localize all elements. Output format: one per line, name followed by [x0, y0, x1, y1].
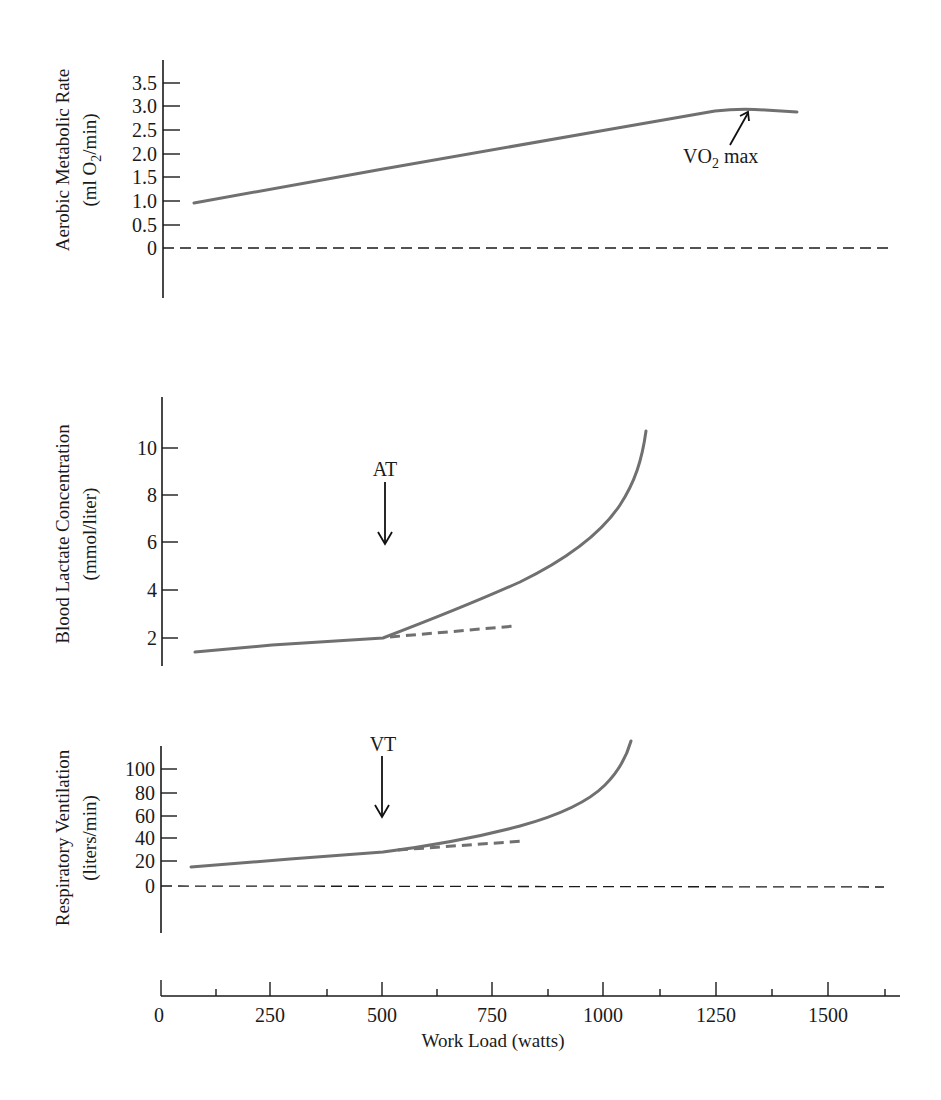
aerobic-panel: Aerobic Metabolic Rate (ml O2/min) 3.5 3… — [52, 60, 890, 298]
svg-text:1250: 1250 — [696, 1004, 736, 1026]
ventilation-y-tick-labels: 100 80 60 40 20 0 — [125, 758, 155, 897]
svg-text:500: 500 — [367, 1004, 397, 1026]
ventilation-zero-line — [161, 886, 884, 887]
ventilation-extrapolation-line — [398, 841, 524, 850]
svg-text:2.5: 2.5 — [132, 119, 157, 141]
vt-annotation: VT — [370, 733, 397, 817]
svg-text:20: 20 — [135, 850, 155, 872]
vo2max-label: VO2 max — [683, 145, 758, 171]
at-annotation: AT — [373, 458, 397, 544]
lactate-panel: Blood Lactate Concentration (mmol/liter)… — [52, 397, 646, 666]
x-axis: 0 250 500 750 1000 1250 1500 Work Load (… — [154, 980, 900, 1052]
svg-text:8: 8 — [147, 484, 157, 506]
svg-text:1.5: 1.5 — [132, 166, 157, 188]
svg-text:80: 80 — [135, 782, 155, 804]
lactate-y-ticks — [162, 448, 178, 638]
svg-text:6: 6 — [147, 531, 157, 553]
aerobic-y-tick-labels: 3.5 3.0 2.5 2.0 1.5 1.0 0.5 0 — [132, 72, 157, 259]
vo2max-arrow-icon — [730, 113, 748, 145]
lactate-curve — [195, 431, 646, 652]
x-axis-title: Work Load (watts) — [421, 1030, 564, 1052]
svg-text:250: 250 — [255, 1004, 285, 1026]
svg-text:0: 0 — [154, 1004, 164, 1026]
svg-text:750: 750 — [477, 1004, 507, 1026]
svg-text:0: 0 — [145, 875, 155, 897]
vo2max-annotation: VO2 max — [683, 112, 758, 171]
svg-text:100: 100 — [125, 758, 155, 780]
svg-text:3.0: 3.0 — [132, 95, 157, 117]
vt-label: VT — [370, 733, 397, 755]
ventilation-panel: Respiratory Ventilation (liters/min) 100… — [52, 733, 884, 933]
ventilation-curve — [191, 741, 631, 867]
svg-text:3.5: 3.5 — [132, 72, 157, 94]
ventilation-y-ticks — [161, 769, 177, 861]
ventilation-ylabel-units: (liters/min) — [79, 795, 101, 880]
svg-text:10: 10 — [137, 437, 157, 459]
svg-text:2.0: 2.0 — [132, 143, 157, 165]
svg-text:1000: 1000 — [583, 1004, 623, 1026]
at-label: AT — [373, 458, 397, 480]
svg-text:2: 2 — [147, 627, 157, 649]
aerobic-y-ticks — [163, 83, 180, 225]
aerobic-ylabel: Aerobic Metabolic Rate — [52, 69, 73, 252]
figure: Aerobic Metabolic Rate (ml O2/min) 3.5 3… — [0, 0, 941, 1100]
ventilation-ylabel: Respiratory Ventilation — [52, 749, 73, 926]
svg-text:1500: 1500 — [808, 1004, 848, 1026]
x-minor-ticks — [216, 989, 885, 996]
svg-text:0: 0 — [147, 237, 157, 259]
lactate-y-tick-labels: 10 8 6 4 2 — [137, 437, 157, 649]
svg-text:4: 4 — [147, 579, 157, 601]
svg-text:60: 60 — [135, 805, 155, 827]
x-tick-labels: 0 250 500 750 1000 1250 1500 — [154, 1004, 848, 1026]
lactate-ylabel: Blood Lactate Concentration — [52, 424, 73, 644]
lactate-ylabel-units: (mmol/liter) — [79, 488, 101, 581]
svg-text:1.0: 1.0 — [132, 190, 157, 212]
svg-text:0.5: 0.5 — [132, 214, 157, 236]
aerobic-ylabel-units: (ml O2/min) — [79, 113, 104, 206]
svg-text:40: 40 — [135, 827, 155, 849]
x-major-ticks — [161, 980, 828, 996]
